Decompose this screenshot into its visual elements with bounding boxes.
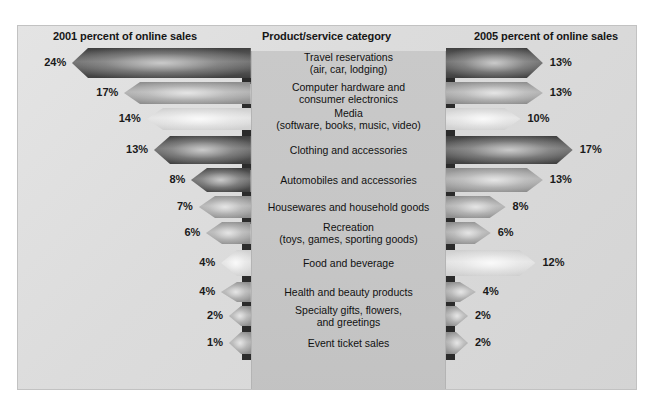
percent-label-right: 2% <box>475 336 491 348</box>
category-label-line: Travel reservations <box>253 51 444 64</box>
percent-label-right: 4% <box>483 285 499 297</box>
bar-arrow-left <box>124 82 251 104</box>
chart-frame: 2001 percent of online sales Product/ser… <box>17 25 637 390</box>
bar-arrow-right <box>446 250 535 276</box>
bar-arrow-left <box>147 108 251 130</box>
category-label-line: Food and beverage <box>253 257 444 270</box>
bar-arrow-right <box>446 48 543 78</box>
category-label: Food and beverage <box>251 257 446 270</box>
bar-arrow-right <box>446 168 543 192</box>
category-label-line: and greetings <box>253 316 444 329</box>
category-label: Housewares and household goods <box>251 201 446 214</box>
category-label: Clothing and accessories <box>251 144 446 157</box>
percent-label-left: 17% <box>86 86 118 98</box>
bar-arrow-right <box>446 82 543 104</box>
bar-arrow-right <box>446 306 468 326</box>
bar-arrow-left <box>221 250 251 276</box>
category-label-line: Health and beauty products <box>253 286 444 299</box>
percent-label-left: 1% <box>191 336 223 348</box>
header-right-column: 2005 percent of online sales <box>474 30 618 42</box>
category-label-line: Media <box>253 107 444 120</box>
percent-label-left: 13% <box>116 143 148 155</box>
category-label: Media(software, books, music, video) <box>251 107 446 132</box>
bar-arrow-right <box>446 282 476 302</box>
bar-arrow-right <box>446 136 573 164</box>
category-label-line: Housewares and household goods <box>253 201 444 214</box>
category-label-line: Clothing and accessories <box>253 144 444 157</box>
bar-arrow-left <box>199 196 251 218</box>
header-left-column: 2001 percent of online sales <box>53 30 197 42</box>
bar-shadow-left <box>242 354 251 360</box>
category-label-line: Automobiles and accessories <box>253 174 444 187</box>
bar-arrow-left <box>154 136 251 164</box>
percent-label-left: 8% <box>153 173 185 185</box>
percent-label-right: 8% <box>513 200 529 212</box>
category-label: Automobiles and accessories <box>251 174 446 187</box>
category-label: Event ticket sales <box>251 337 446 350</box>
bar-arrow-left <box>229 332 251 354</box>
percent-label-right: 10% <box>528 112 550 124</box>
bar-arrow-left <box>72 48 251 78</box>
category-label-line: Recreation <box>253 221 444 234</box>
bar-arrow-right <box>446 108 521 130</box>
bar-arrow-left <box>229 306 251 326</box>
percent-label-left: 14% <box>109 112 141 124</box>
bar-arrow-left <box>206 222 251 244</box>
bar-arrow-left <box>221 282 251 302</box>
category-label-line: Specialty gifts, flowers, <box>253 304 444 317</box>
percent-label-right: 13% <box>550 173 572 185</box>
category-label: Recreation(toys, games, sporting goods) <box>251 221 446 246</box>
percent-label-left: 6% <box>168 226 200 238</box>
bar-arrow-right <box>446 196 506 218</box>
category-label-line: (toys, games, sporting goods) <box>253 233 444 246</box>
percent-label-right: 6% <box>498 226 514 238</box>
category-label: Computer hardware andconsumer electronic… <box>251 81 446 106</box>
category-label: Specialty gifts, flowers,and greetings <box>251 304 446 329</box>
category-label: Travel reservations(air, car, lodging) <box>251 51 446 76</box>
percent-label-right: 13% <box>550 86 572 98</box>
category-label-line: (air, car, lodging) <box>253 63 444 76</box>
header-center-column: Product/service category <box>262 30 391 42</box>
percent-label-left: 24% <box>34 56 66 68</box>
bar-shadow-right <box>446 354 455 360</box>
percent-label-left: 4% <box>183 256 215 268</box>
bar-arrow-right <box>446 332 468 354</box>
bar-arrow-left <box>191 168 251 192</box>
category-label-line: consumer electronics <box>253 93 444 106</box>
percent-label-right: 12% <box>542 256 564 268</box>
percent-label-left: 7% <box>161 200 193 212</box>
percent-label-left: 2% <box>191 309 223 321</box>
category-label-line: Event ticket sales <box>253 337 444 350</box>
bar-arrow-right <box>446 222 491 244</box>
category-label-line: Computer hardware and <box>253 81 444 94</box>
percent-label-right: 17% <box>580 143 602 155</box>
percent-label-right: 2% <box>475 309 491 321</box>
category-label: Health and beauty products <box>251 286 446 299</box>
percent-label-left: 4% <box>183 285 215 297</box>
category-label-line: (software, books, music, video) <box>253 119 444 132</box>
percent-label-right: 13% <box>550 56 572 68</box>
